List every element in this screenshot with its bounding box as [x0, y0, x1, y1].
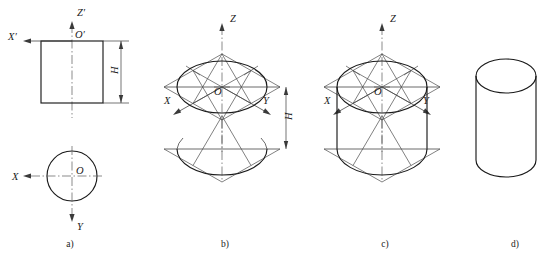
- panel-a-x-axis-label: X: [11, 171, 19, 182]
- panel-b-z-arrowhead: [219, 23, 224, 31]
- panel-c-x-axis-label: X: [323, 95, 331, 106]
- panel-d-top-ellipse: [476, 59, 536, 93]
- panel-b-caption: b): [221, 239, 229, 250]
- panel-a-o-origin-label: O: [76, 165, 84, 176]
- panel-b-dim-arrow-bottom: [284, 141, 288, 149]
- panel-a-y-axis-label: Y: [77, 221, 84, 232]
- panel-b-x-axis-label: X: [163, 95, 171, 106]
- panel-d-caption: d): [511, 239, 519, 250]
- panel-a-y-arrowhead: [69, 214, 74, 222]
- panel-c-lower-construct-1: [353, 116, 382, 166]
- panel-d-group: [476, 59, 536, 177]
- panel-b-bottom-arc-right-tip: [261, 138, 267, 149]
- panel-c-o-origin-label: O: [374, 86, 382, 97]
- panel-a-z-prime-axis-label: Z′: [77, 7, 86, 18]
- panel-c-z-axis-label: Z: [390, 13, 396, 24]
- panel-b-dim-arrow-top: [284, 87, 288, 95]
- technical-drawing-canvas: Z′ O′ X′ H X O Y Z O X Y H Z O X Y a) b)…: [0, 0, 549, 262]
- panel-b-o-origin-label: O: [214, 86, 222, 97]
- panel-b-lower-construct-2: [222, 116, 251, 166]
- panel-a-x-arrowhead: [23, 174, 31, 179]
- panel-b-x-arrowhead: [173, 108, 181, 115]
- panel-d-bottom-visible-arc: [476, 160, 536, 177]
- panel-c-z-arrowhead: [379, 23, 384, 31]
- panel-b-lower-construct-1: [193, 116, 222, 166]
- panel-c-lower-construct-2: [382, 116, 411, 166]
- panel-b-group: [164, 23, 288, 182]
- panel-a-z-prime-arrowhead: [69, 21, 74, 29]
- panel-c-caption: c): [381, 239, 388, 250]
- panel-a-caption: a): [66, 239, 73, 250]
- panel-a-dim-arrow-top: [119, 41, 123, 49]
- panel-a-o-prime-origin-label: O′: [75, 29, 86, 40]
- panel-b-y-axis-label: Y: [263, 95, 270, 106]
- panel-a-dim-arrow-bottom: [119, 95, 123, 103]
- panel-b-y-arrowhead: [263, 108, 271, 115]
- panel-c-y-axis-label: Y: [423, 95, 430, 106]
- panel-a-h-dimension-label: H: [109, 65, 120, 75]
- panel-b-z-axis-label: Z: [230, 13, 236, 24]
- panel-a-group: [23, 21, 129, 222]
- figure-root: Z′ O′ X′ H X O Y Z O X Y H Z O X Y a) b)…: [0, 0, 549, 262]
- panel-a-x-prime-arrowhead: [23, 39, 31, 44]
- panel-a-x-prime-axis-label: X′: [7, 31, 17, 42]
- panel-b-bottom-arc-left-tip: [177, 138, 183, 149]
- panel-b-h-dimension-label: H: [283, 111, 294, 121]
